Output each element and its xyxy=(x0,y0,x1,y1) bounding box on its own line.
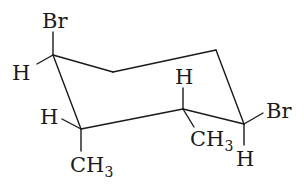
br-label-top: Br xyxy=(42,9,68,33)
substituent-bonds xyxy=(37,32,263,151)
ch3-c6-subscript: 3 xyxy=(104,164,113,180)
ch3-label-c5: CH3 xyxy=(190,127,233,154)
bond-c3-c4 xyxy=(216,50,244,124)
ch3-label-c6: CH3 xyxy=(70,153,113,180)
h-label-c5: H xyxy=(175,65,193,89)
cyclohexane-chair-diagram: Br H H CH3 H CH3 Br H xyxy=(0,0,304,186)
h-label-c1: H xyxy=(12,61,30,85)
ch3-c5-main: CH xyxy=(190,127,224,151)
br-label-right: Br xyxy=(266,99,292,123)
ring-bonds xyxy=(53,50,244,129)
bond-c2-c3 xyxy=(113,50,216,72)
bond-c1-c2 xyxy=(53,55,113,72)
h-label-c6: H xyxy=(40,105,58,129)
bond-c5-c6 xyxy=(81,109,183,129)
ch3-c6-main: CH xyxy=(70,153,104,177)
h-label-c4: H xyxy=(236,147,254,171)
bond-c4-br xyxy=(244,113,263,124)
ch3-c5-subscript: 3 xyxy=(224,138,233,154)
bond-c4-c5 xyxy=(183,109,244,124)
bond-c1-h xyxy=(37,55,53,64)
